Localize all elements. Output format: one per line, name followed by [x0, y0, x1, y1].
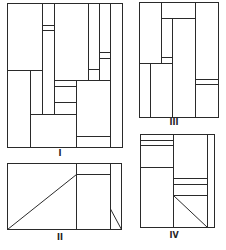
- panel-iv-frame: [141, 135, 215, 228]
- panel-iii-label: III: [170, 118, 179, 127]
- panel-iv-label: IV: [169, 231, 179, 240]
- panel-ii: II: [8, 164, 122, 243]
- panel-ii-label: II: [57, 233, 63, 242]
- panel-iii-frame: [140, 3, 219, 118]
- panel-i-label: I: [59, 149, 62, 158]
- panel-iii: III: [140, 3, 219, 128]
- panel-i: I: [8, 4, 123, 159]
- panel-ii-frame: [8, 164, 122, 230]
- figure-canvas: I III II IV: [0, 0, 226, 250]
- panel-i-frame: [8, 4, 123, 148]
- panel-iv: IV: [141, 135, 215, 241]
